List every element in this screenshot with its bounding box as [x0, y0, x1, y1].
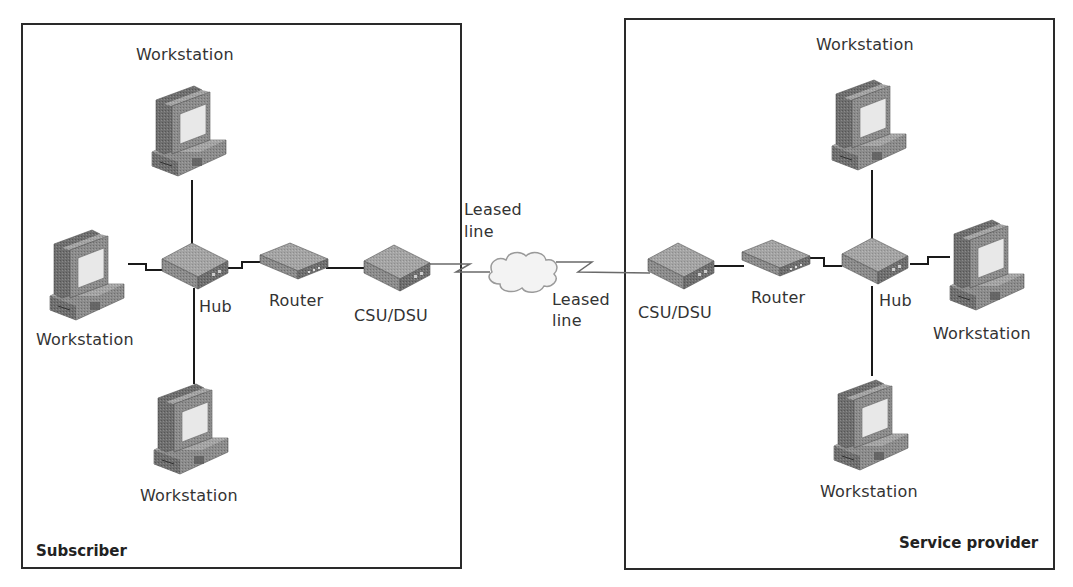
subscriber-csu-dsu-label: CSU/DSU	[354, 306, 428, 325]
subscriber-workstation-top-label: Workstation	[136, 45, 234, 64]
provider-leased-line-label-1: Leased	[552, 290, 610, 309]
wan-cloud-icon	[489, 253, 557, 293]
subscriber-workstation-bottom-label: Workstation	[140, 486, 238, 505]
subscriber-links	[128, 180, 364, 384]
subscriber-workstation-bottom-icon	[154, 384, 228, 474]
provider-router-icon	[742, 240, 810, 276]
provider-links	[714, 170, 950, 376]
subscriber-hub-label: Hub	[199, 297, 232, 316]
subscriber-workstation-left-icon	[50, 230, 124, 320]
provider-workstation-top-label: Workstation	[816, 35, 914, 54]
provider-leased-line-label-2: line	[552, 311, 582, 330]
provider-workstation-bottom-icon	[834, 380, 908, 470]
provider-hub-icon	[842, 238, 908, 284]
subscriber-workstation-top-icon	[152, 86, 226, 176]
provider-zone-label: Service provider	[899, 534, 1038, 552]
provider-workstation-right-label: Workstation	[933, 324, 1031, 343]
provider-workstation-bottom-label: Workstation	[820, 482, 918, 501]
subscriber-workstation-left-label: Workstation	[36, 330, 134, 349]
subscriber-csu-dsu-icon	[364, 245, 430, 291]
provider-leased-line	[556, 262, 650, 273]
subscriber-zone-label: Subscriber	[36, 542, 127, 560]
subscriber-leased-line-label-2: line	[464, 222, 494, 241]
subscriber-leased-line-label-1: Leased	[464, 200, 522, 219]
provider-csu-dsu-label: CSU/DSU	[638, 303, 712, 322]
provider-router-label: Router	[751, 288, 805, 307]
subscriber-router-label: Router	[269, 291, 323, 310]
provider-workstation-right-icon	[950, 220, 1024, 310]
subscriber-hub-icon	[162, 243, 228, 289]
provider-workstation-top-icon	[832, 80, 906, 170]
subscriber-leased-line	[428, 264, 490, 272]
subscriber-router-icon	[260, 243, 328, 279]
provider-csu-dsu-icon	[648, 243, 714, 289]
provider-hub-label: Hub	[879, 291, 912, 310]
